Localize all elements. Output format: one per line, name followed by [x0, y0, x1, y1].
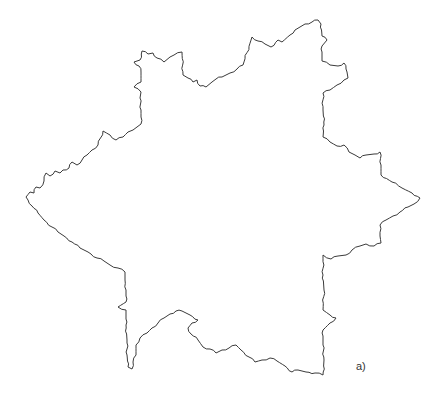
figure-panel-label: a) — [356, 360, 366, 372]
fractal-outline-path — [26, 20, 420, 375]
fractal-star-outline-figure — [0, 0, 448, 393]
